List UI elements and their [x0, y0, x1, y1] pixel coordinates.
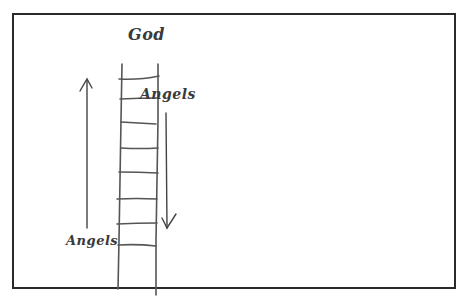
angels-ascending-label: Angels — [66, 233, 118, 248]
ladder-left-rail — [118, 64, 122, 289]
angels-descending-label: Angels — [140, 86, 196, 102]
ladder-diagram — [0, 0, 464, 300]
ladder-rung — [119, 76, 159, 79]
ladder-rung — [117, 199, 157, 200]
down-arrow-icon — [162, 113, 176, 228]
ladder-rung — [119, 172, 158, 173]
god-label: God — [128, 25, 165, 44]
ladder-rung — [118, 245, 156, 246]
diagram-canvas: God Angels Angels — [0, 0, 464, 300]
ladder-rung — [117, 223, 157, 224]
up-arrow-icon — [80, 79, 92, 228]
ladder-rung — [121, 148, 158, 149]
ladder-rung — [121, 122, 156, 124]
